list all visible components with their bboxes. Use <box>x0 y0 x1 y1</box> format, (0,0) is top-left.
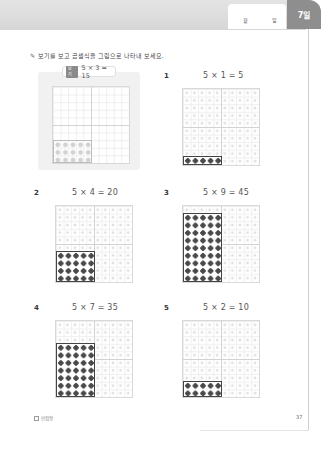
problem-grid[interactable] <box>55 205 133 283</box>
grid-divider <box>183 127 259 128</box>
pencil-icon: ✎ <box>30 52 35 59</box>
month-label: 월 <box>243 16 248 23</box>
instruction-text: 보기를 보고 곱셈식을 그림으로 나타내 보세요. <box>38 51 163 60</box>
logo-icon <box>34 416 39 421</box>
instruction: ✎ 보기를 보고 곱셈식을 그림으로 나타내 보세요. <box>30 51 163 60</box>
example-equation: 5 × 3 = 15 <box>82 64 116 80</box>
problem-number: 2 <box>34 189 39 197</box>
problem-equation: 5 × 1 = 5 <box>203 71 244 80</box>
grid-divider <box>56 244 132 245</box>
problem-equation: 5 × 2 = 10 <box>203 303 249 312</box>
problem-number: 1 <box>164 72 169 80</box>
problem-grid[interactable] <box>182 205 260 283</box>
example-grid <box>52 86 130 164</box>
problem-number: 3 <box>164 189 169 197</box>
page-border <box>308 29 309 431</box>
problem-grid[interactable] <box>55 320 133 398</box>
example-dot-array <box>53 140 92 163</box>
day-label: 일 <box>272 16 277 23</box>
problem-number: 4 <box>34 304 39 312</box>
answer-dot-array <box>183 156 222 165</box>
answer-dot-array <box>56 343 95 397</box>
grid-divider <box>53 125 129 126</box>
problem-equation: 5 × 7 = 35 <box>72 303 118 312</box>
answer-dot-array <box>183 381 222 397</box>
problem-grid[interactable] <box>182 320 260 398</box>
answer-dot-array <box>56 251 95 282</box>
problem-equation: 5 × 9 = 45 <box>203 188 249 197</box>
day-tab: 7일 <box>287 0 321 29</box>
date-box: 월 일 <box>228 4 286 29</box>
footer-logo: 만점왕 <box>34 415 53 421</box>
page-border-bottom <box>200 430 309 431</box>
problem-number: 5 <box>164 304 169 312</box>
problem-grid[interactable] <box>182 88 260 166</box>
page-number: 37 <box>296 414 302 420</box>
example-badge: 보기 5 × 3 = 15 <box>62 66 116 77</box>
footer-logo-text: 만점왕 <box>41 415 53 421</box>
grid-divider <box>183 359 259 360</box>
example-tag: 보기 <box>66 66 78 78</box>
problem-equation: 5 × 4 = 20 <box>72 188 118 197</box>
answer-dot-array <box>183 213 222 282</box>
